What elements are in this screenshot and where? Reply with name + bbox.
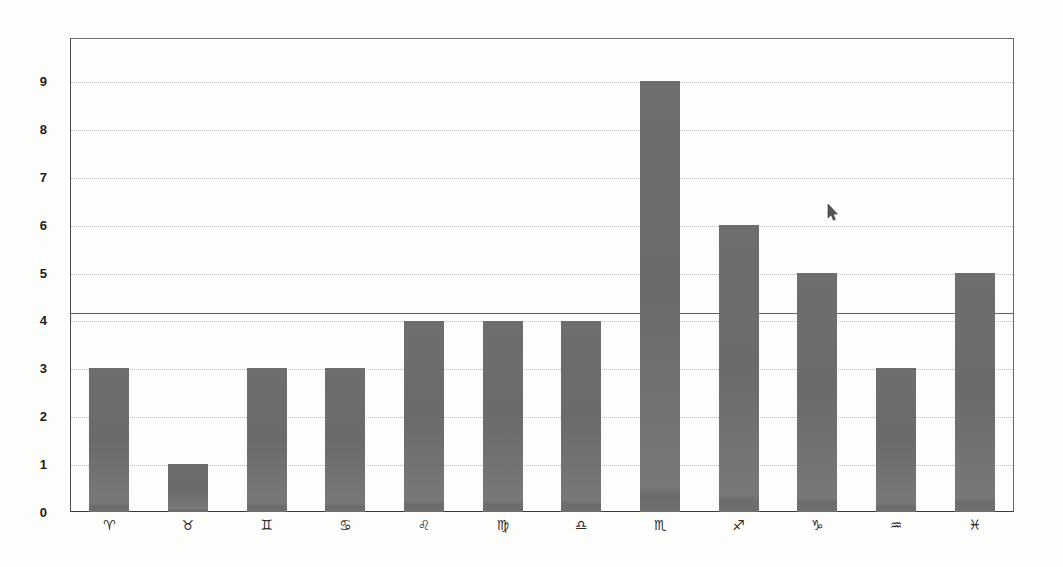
x-axis-tick-label: ♐ [709,518,769,532]
x-axis-tick-label: ♊ [237,518,297,532]
y-axis-tick-label: 8 [7,121,47,136]
bar [719,225,759,512]
y-axis-tick-label: 6 [7,217,47,232]
x-axis-tick-label: ♒ [866,518,926,532]
bar [561,321,601,513]
bar [325,368,365,512]
bar [483,321,523,513]
y-axis-tick-label: 5 [7,265,47,280]
y-axis-tick-label: 0 [7,505,47,520]
y-axis-tick-label: 7 [7,169,47,184]
y-axis-tick-label: 4 [7,313,47,328]
x-axis-tick-label: ♎ [551,518,611,532]
bar [247,368,287,512]
y-axis-tick-label: 1 [7,457,47,472]
x-axis-tick-label: ♍ [473,518,533,532]
bar [640,81,680,512]
y-axis-tick-label: 9 [7,74,47,89]
bar-series [70,38,1014,512]
bar-chart: 0123456789 ♈♉♊♋♌♍♎♏♐♑♒♓ [0,0,1063,567]
bar [89,368,129,512]
x-axis-tick-label: ♉ [158,518,218,532]
bar [168,464,208,512]
y-axis-tick-label: 2 [7,409,47,424]
bar [876,368,916,512]
bar [797,273,837,512]
x-axis-tick-label: ♏ [630,518,690,532]
x-axis-tick-label: ♑ [787,518,847,532]
x-axis-tick-label: ♋ [315,518,375,532]
y-axis-tick-label: 3 [7,361,47,376]
x-axis-tick-label: ♈ [79,518,139,532]
bar [404,321,444,513]
x-axis-tick-label: ♌ [394,518,454,532]
x-axis-tick-label: ♓ [945,518,1005,532]
bar [955,273,995,512]
